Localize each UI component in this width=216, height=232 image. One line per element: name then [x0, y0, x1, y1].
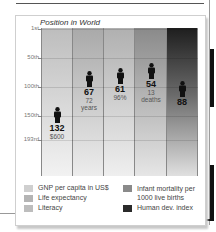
rank-marker-gnp: 132 $600	[47, 107, 67, 140]
legend-label: Human dev. index	[137, 204, 193, 211]
gridline	[41, 29, 198, 30]
legend-label-line: 1000 live births	[137, 194, 184, 201]
rank-value: 132	[47, 124, 67, 133]
chart-title: Position in World	[40, 18, 100, 27]
page-edge-bar	[210, 165, 214, 221]
rank-value: 88	[172, 98, 192, 107]
gridline	[41, 58, 198, 59]
column-gnp	[41, 28, 73, 176]
rank-value: 54	[141, 80, 161, 89]
legend-swatch	[24, 195, 33, 202]
legend-item-literacy: Literacy	[24, 204, 63, 212]
person-icon	[116, 68, 125, 84]
y-tick-label: 193rd	[24, 136, 39, 142]
bottom-rule	[0, 213, 16, 214]
legend-item-infant-mortality: Infant mortality per1000 live births	[123, 184, 195, 202]
legend-label: Literacy	[38, 204, 63, 211]
plot-area: 132 $600 67 72 years 61 96% 54 13 deaths…	[41, 28, 198, 176]
person-icon	[147, 63, 156, 79]
rank-detail: years	[79, 104, 99, 111]
legend-item-gnp: GNP per capita in US$	[24, 184, 109, 192]
person-icon	[178, 81, 187, 97]
gridline	[41, 140, 198, 141]
rank-marker-literacy: 61 96%	[110, 68, 130, 101]
y-tick-label: 1st	[31, 25, 39, 31]
chart-card: Position in World 1st 50th 100th 150th 1…	[15, 15, 206, 226]
legend-swatch	[123, 185, 132, 192]
legend-label: Infant mortality per1000 live births	[137, 184, 195, 202]
rank-value: 67	[79, 88, 99, 97]
legend-item-human-dev-index: Human dev. index	[123, 204, 193, 212]
rank-marker-infant-mortality: 54 13 deaths	[141, 63, 161, 103]
legend-swatch	[123, 205, 132, 212]
y-tick-label: 100th	[24, 83, 39, 89]
y-tick-label: 50th	[27, 54, 39, 60]
legend-label-line: Infant mortality per	[137, 185, 195, 192]
rank-detail: 13	[141, 89, 161, 96]
rank-detail: 72	[79, 97, 99, 104]
rank-marker-life-expectancy: 67 72 years	[79, 71, 99, 111]
legend-swatch	[24, 185, 33, 192]
y-tick-label: 150th	[24, 112, 39, 118]
legend-label: GNP per capita in US$	[38, 184, 109, 191]
person-icon	[53, 107, 62, 123]
rank-detail: $600	[47, 133, 67, 140]
page-edge-foot	[206, 219, 214, 221]
page-edge-bar	[210, 49, 214, 107]
legend-label: Life expectancy	[38, 194, 87, 201]
legend-item-life-expectancy: Life expectancy	[24, 194, 87, 202]
rank-detail: deaths	[141, 96, 161, 103]
rank-marker-human-dev-index: 88	[172, 81, 192, 107]
legend-swatch	[24, 205, 33, 212]
person-icon	[85, 71, 94, 87]
rank-detail: 96%	[110, 94, 130, 101]
column-literacy	[104, 28, 135, 176]
rank-value: 61	[110, 85, 130, 94]
top-rule	[16, 3, 204, 4]
